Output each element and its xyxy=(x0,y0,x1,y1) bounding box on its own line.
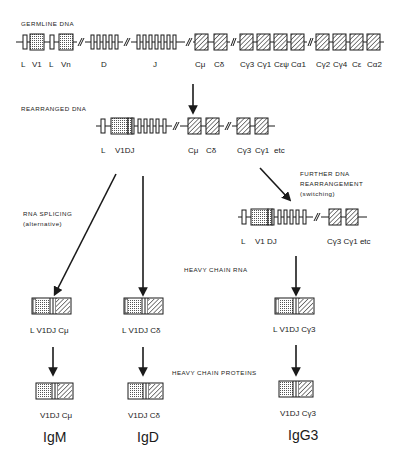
rearranged-Cgamma3 xyxy=(237,118,250,134)
ig-heavy-chain-diagram: GERMLINE DNA xyxy=(0,0,399,465)
label-L: L xyxy=(49,60,54,69)
rearranged-dna: REARRANGED DNA L V1DJ xyxy=(21,105,285,155)
label-Cgamma3: Cγ3 xyxy=(237,146,252,155)
label-Cgamma3-Cgamma1-etc: Cγ3 Cγ1 etc xyxy=(327,237,371,246)
rna-mu: L V1DJ Cμ xyxy=(30,298,71,335)
label-Vn: Vn xyxy=(61,60,71,69)
isotype-igd: IgD xyxy=(137,429,159,445)
label-Cgamma1: Cγ1 xyxy=(255,146,270,155)
protein-igm: V1DJ Cμ IgM xyxy=(36,383,73,445)
label-Cgamma3: Cγ3 xyxy=(240,60,255,69)
label-Cepsilon: Cε xyxy=(352,60,362,69)
break-mark xyxy=(172,120,180,132)
rearranged-L-exon xyxy=(101,119,105,133)
rearranged-Cgamma1 xyxy=(255,118,268,134)
germline-Cdelta xyxy=(214,34,227,50)
protein-igg3: V1DJ Cγ3 IgG3 xyxy=(279,381,319,443)
label-D: D xyxy=(101,60,107,69)
break-mark xyxy=(224,120,232,132)
switched-VDJ xyxy=(251,209,274,225)
rna-gamma3-label: L V1DJ Cγ3 xyxy=(273,325,316,334)
label-Calpha2: Cα2 xyxy=(367,60,382,69)
break-mark xyxy=(307,36,314,48)
heavy-chain-rna-label: HEAVY CHAIN RNA xyxy=(184,266,248,273)
germline-Cgamma3 xyxy=(240,34,253,50)
break-mark xyxy=(230,36,237,48)
germline-Calpha1 xyxy=(291,34,304,50)
germline-L2-exon xyxy=(50,35,54,49)
rna-splicing-subtitle: (alternative) xyxy=(23,220,62,227)
switched-L-exon xyxy=(242,210,246,224)
break-mark xyxy=(123,36,131,48)
protein-igd: V1DJ Cδ IgD xyxy=(128,383,163,445)
switching-label-line2: REARRANGEMENT xyxy=(300,180,363,187)
isotype-igg3: IgG3 xyxy=(288,427,319,443)
protein-igg3-label: V1DJ Cγ3 xyxy=(280,409,317,418)
label-Cgamma1: Cγ1 xyxy=(257,60,272,69)
germline-Cgamma4 xyxy=(333,34,346,50)
germline-V1-segment xyxy=(30,34,44,50)
germline-Cgamma1 xyxy=(257,34,270,50)
switched-dna: L V1 DJ Cγ3 Cγ1 etc xyxy=(238,209,371,246)
germline-Cepsilon xyxy=(350,34,363,50)
protein-igd-label: V1DJ Cδ xyxy=(128,411,161,420)
germline-labels: L V1 L Vn D J Cμ Cδ Cγ3 Cγ1 Cεψ Cα1 Cγ2 … xyxy=(21,60,382,69)
label-V1DJ: V1 DJ xyxy=(255,237,277,246)
label-etc: etc xyxy=(274,146,285,155)
rna-gamma3: L V1DJ Cγ3 xyxy=(273,298,316,334)
switched-Cgamma3 xyxy=(329,209,341,225)
label-Cgamma4: Cγ4 xyxy=(333,60,348,69)
isotype-igm: IgM xyxy=(43,429,66,445)
label-Cepsilon-pseudo: Cεψ xyxy=(274,60,289,69)
label-L: L xyxy=(21,60,26,69)
rna-delta-label: L V1DJ Cδ xyxy=(122,326,161,335)
label-Cdelta: Cδ xyxy=(206,146,217,155)
heavy-chain-proteins-label: HEAVY CHAIN PROTEINS xyxy=(172,369,257,376)
switching-label-line1: FURTHER DNA xyxy=(300,170,350,177)
label-Cmu: Cμ xyxy=(195,60,206,69)
break-mark xyxy=(313,211,321,223)
splicing-arrow-icon xyxy=(56,174,116,292)
rna-delta: L V1DJ Cδ xyxy=(122,298,163,335)
rearranged-VDJ xyxy=(111,118,134,134)
label-V1DJ: V1DJ xyxy=(115,146,135,155)
label-Cgamma2: Cγ2 xyxy=(316,60,331,69)
label-Cmu: Cμ xyxy=(188,146,199,155)
rna-mu-label: L V1DJ Cμ xyxy=(30,326,69,335)
rearranged-heading: REARRANGED DNA xyxy=(21,105,87,112)
germline-Cgamma2 xyxy=(316,34,329,50)
germline-L1-exon xyxy=(23,35,27,49)
germline-Vn-segment xyxy=(59,34,73,50)
label-L: L xyxy=(241,237,246,246)
protein-igm-label: V1DJ Cμ xyxy=(40,411,73,420)
switching-arrow-icon xyxy=(260,168,288,198)
germline-J-segments xyxy=(137,35,176,49)
germline-Cmu xyxy=(195,34,208,50)
label-Calpha1: Cα1 xyxy=(291,60,306,69)
germline-dna: GERMLINE DNA xyxy=(16,20,384,69)
label-Cdelta: Cδ xyxy=(214,60,225,69)
break-mark xyxy=(185,36,193,48)
label-J: J xyxy=(153,60,157,69)
germline-Calpha2 xyxy=(367,34,380,50)
switching-label-line3: (switching) xyxy=(300,190,335,197)
germline-heading: GERMLINE DNA xyxy=(21,20,74,27)
rearranged-Cmu xyxy=(188,118,201,134)
rna-splicing-label: RNA SPLICING xyxy=(23,210,72,217)
switched-Cgamma1 xyxy=(346,209,358,225)
break-mark xyxy=(77,36,85,48)
germline-Cepsilon-pseudo xyxy=(274,34,287,50)
rearranged-Cdelta xyxy=(206,118,219,134)
label-L: L xyxy=(101,146,106,155)
label-V1: V1 xyxy=(32,60,42,69)
